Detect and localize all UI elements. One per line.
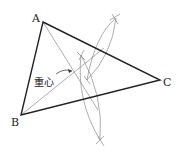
- vertex-label-c: C: [163, 76, 171, 89]
- vertex-label-a: A: [31, 12, 41, 25]
- ac-bisector-arcs: [84, 14, 120, 84]
- vertex-label-b: B: [11, 116, 19, 129]
- centroid-label: 重心: [34, 76, 54, 88]
- triangle-abc: [21, 22, 160, 115]
- medians: [21, 22, 104, 115]
- centroid-construction-diagram: A B C 重心: [0, 0, 181, 157]
- arrow-head-icon: [68, 69, 72, 73]
